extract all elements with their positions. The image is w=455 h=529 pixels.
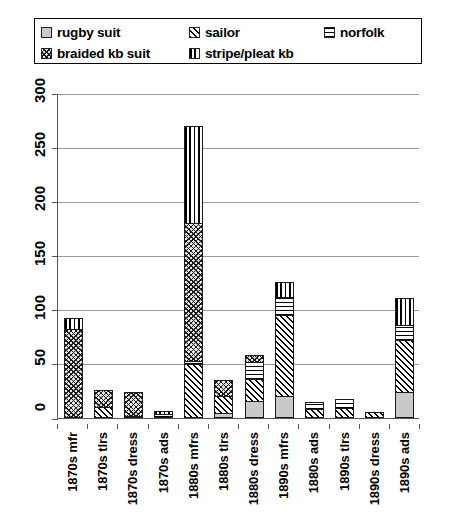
legend-swatch-sailor-icon — [189, 27, 200, 38]
legend-swatch-stripe-pleat-kb-icon — [189, 48, 200, 59]
bar-segment[interactable] — [395, 392, 414, 418]
x-tick — [389, 424, 390, 429]
bar-segment[interactable] — [335, 408, 354, 418]
y-tick-label-250: 250 — [31, 132, 48, 157]
x-tick — [87, 424, 88, 429]
bar-segment[interactable] — [124, 392, 143, 416]
y-tick-label-300: 300 — [31, 78, 48, 103]
bar-segment[interactable] — [275, 396, 294, 418]
x-axis-labels: 1870s mfr1870s tlrs1870s dress1870s ads1… — [57, 424, 419, 529]
bar-column[interactable] — [245, 355, 264, 418]
legend-row-2: braided kb suit stripe/pleat kb — [41, 43, 421, 64]
bar-column[interactable] — [94, 390, 113, 418]
bar-column[interactable] — [275, 282, 294, 418]
legend-label-sailor: sailor — [205, 26, 240, 40]
bar-segment[interactable] — [245, 401, 264, 418]
legend-label-stripe-pleat-kb: stripe/pleat kb — [205, 47, 294, 61]
bar-segment[interactable] — [94, 390, 113, 407]
x-tick-label: 1890s tlrs — [337, 432, 352, 491]
legend-swatch-rugby-suit-icon — [41, 27, 52, 38]
bar-segment[interactable] — [184, 126, 203, 224]
bar-column[interactable] — [154, 411, 173, 418]
bar-segment[interactable] — [214, 413, 233, 418]
legend-item-sailor: sailor — [189, 26, 324, 40]
x-tick — [238, 424, 239, 429]
x-tick — [298, 424, 299, 429]
bar-segment[interactable] — [184, 364, 203, 418]
chart-bars — [58, 94, 419, 418]
y-tick-label-0: 0 — [31, 403, 48, 411]
bar-column[interactable] — [395, 298, 414, 418]
bar-segment[interactable] — [365, 412, 384, 419]
bar-column[interactable] — [184, 126, 203, 418]
x-tick — [268, 424, 269, 429]
bar-segment[interactable] — [94, 407, 113, 418]
x-tick-label: 1890s dress — [367, 432, 382, 505]
legend-item-rugby-suit: rugby suit — [41, 26, 189, 40]
x-tick-label: 1880s dress — [246, 432, 261, 505]
x-tick — [148, 424, 149, 429]
x-tick-label: 1890s mfrs — [276, 432, 291, 499]
bar-column[interactable] — [365, 412, 384, 419]
x-tick — [419, 424, 420, 429]
bar-segment[interactable] — [305, 409, 324, 418]
x-tick-label: 1870s mfr — [65, 432, 80, 492]
legend-label-norfolk: norfolk — [340, 26, 384, 40]
x-tick — [329, 424, 330, 429]
x-tick-label: 1880s mfrs — [186, 432, 201, 499]
x-tick — [178, 424, 179, 429]
x-tick-label: 1880s ads — [306, 432, 321, 493]
bar-segment[interactable] — [214, 380, 233, 396]
chart-legend: rugby suit sailor norfolk braided kb sui… — [34, 18, 422, 64]
bar-segment[interactable] — [335, 399, 354, 409]
legend-label-rugby-suit: rugby suit — [57, 26, 120, 40]
bar-segment[interactable] — [275, 315, 294, 396]
bar-segment[interactable] — [245, 379, 264, 401]
chart-plot-area — [57, 94, 419, 419]
bar-column[interactable] — [124, 392, 143, 418]
bar-column[interactable] — [64, 318, 83, 418]
x-tick — [359, 424, 360, 429]
y-tick-label-150: 150 — [31, 241, 48, 266]
legend-label-braided-kb-suit: braided kb suit — [57, 47, 150, 61]
bar-segment[interactable] — [214, 396, 233, 412]
bar-segment[interactable] — [275, 282, 294, 297]
x-tick — [57, 424, 58, 429]
legend-row-1: rugby suit sailor norfolk — [41, 22, 421, 43]
x-tick — [208, 424, 209, 429]
legend-item-stripe-pleat-kb: stripe/pleat kb — [189, 47, 294, 61]
x-tick-label: 1870s dress — [125, 432, 140, 505]
bar-column[interactable] — [335, 399, 354, 419]
bar-segment[interactable] — [395, 325, 414, 340]
bar-segment[interactable] — [245, 362, 264, 379]
legend-swatch-braided-kb-suit-icon — [41, 48, 52, 59]
legend-swatch-norfolk-icon — [324, 27, 335, 38]
bar-segment[interactable] — [275, 297, 294, 315]
bar-column[interactable] — [305, 402, 324, 418]
bar-segment[interactable] — [395, 298, 414, 325]
bar-segment[interactable] — [305, 402, 324, 410]
bar-segment[interactable] — [154, 414, 173, 418]
y-tick-label-50: 50 — [31, 349, 48, 366]
x-tick-label: 1870s tlrs — [95, 432, 110, 491]
y-tick-label-100: 100 — [31, 295, 48, 320]
x-tick-label: 1880s tlrs — [216, 432, 231, 491]
y-tick-0 — [52, 419, 58, 420]
y-axis-labels: 050100150200250300 — [0, 94, 52, 419]
bar-column[interactable] — [214, 380, 233, 418]
bar-segment[interactable] — [184, 223, 203, 361]
x-tick-label: 1870s ads — [156, 432, 171, 493]
legend-item-norfolk: norfolk — [324, 26, 384, 40]
x-tick-label: 1890s ads — [397, 432, 412, 493]
legend-item-braided-kb-suit: braided kb suit — [41, 47, 189, 61]
bar-segment[interactable] — [64, 318, 83, 329]
y-tick-label-200: 200 — [31, 186, 48, 211]
x-tick — [117, 424, 118, 429]
bar-segment[interactable] — [124, 416, 143, 419]
bar-segment[interactable] — [395, 340, 414, 392]
bar-segment[interactable] — [64, 329, 83, 418]
